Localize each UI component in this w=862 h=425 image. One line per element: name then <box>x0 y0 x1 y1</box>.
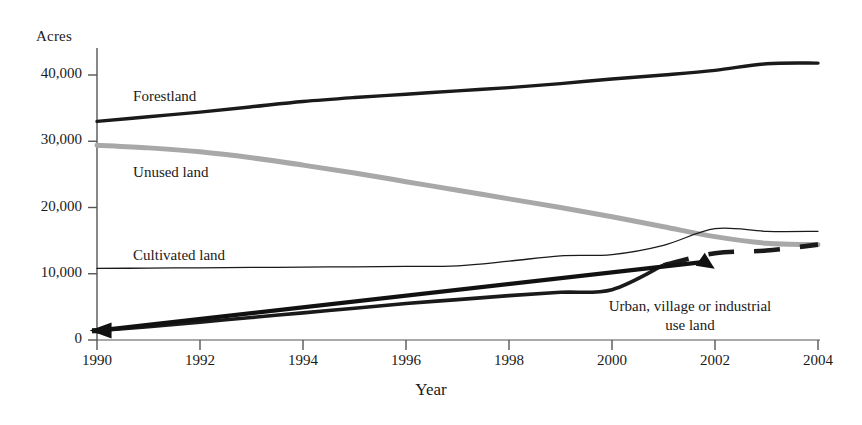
urban-annotation-text: Urban, village or industrialuse land <box>545 297 835 335</box>
x-tick-label: 1998 <box>469 352 549 369</box>
x-tick-label: 2004 <box>778 352 858 369</box>
y-tick-label: 10,000 <box>0 264 82 281</box>
y-tick-label: 0 <box>0 330 82 347</box>
series-line-forestland <box>97 63 818 121</box>
y-tick-label: 30,000 <box>0 131 82 148</box>
x-tick-label: 1990 <box>57 352 137 369</box>
line-chart: Acres Year 010,00020,00030,00040,000 199… <box>0 0 862 425</box>
x-tick-label: 1994 <box>263 352 343 369</box>
x-tick-label: 2000 <box>572 352 652 369</box>
urban-annotation-line2: use land <box>545 316 835 335</box>
series-paths <box>92 63 818 333</box>
y-axis-ticks <box>88 75 97 340</box>
series-label-unused-land: Unused land <box>133 164 208 181</box>
series-label-cultivated-land: Cultivated land <box>133 247 225 264</box>
y-tick-label: 40,000 <box>0 65 82 82</box>
annotation-arrow-head-left <box>90 322 112 338</box>
x-axis-ticks <box>97 340 818 350</box>
urban-annotation-line1: Urban, village or industrial <box>545 297 835 316</box>
x-tick-label: 1992 <box>160 352 240 369</box>
x-axis-title: Year <box>0 380 862 400</box>
x-tick-label: 1996 <box>366 352 446 369</box>
y-tick-label: 20,000 <box>0 198 82 215</box>
y-axis-unit-label: Acres <box>36 28 72 45</box>
x-tick-label: 2002 <box>675 352 755 369</box>
series-label-forestland: Forestland <box>133 88 196 105</box>
